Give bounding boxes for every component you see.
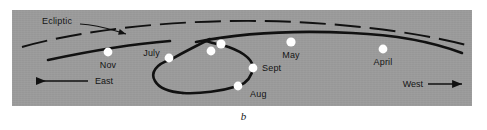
label-west: West [403,79,424,89]
marker-unlabeled-lower [207,47,216,56]
retrograde-loop-exit [222,45,253,67]
marker-unlabeled-upper [216,39,225,48]
figure-panel-b: Ecliptic Nov July Sept Aug May April Eas… [0,0,487,130]
marker-sept [249,64,258,73]
figure-caption: b [0,110,487,122]
retrograde-loop-west-hook [153,60,183,93]
marker-april [379,45,388,54]
retrograde-loop-bottom [183,86,238,93]
label-ecliptic: Ecliptic [42,16,72,26]
marker-july [165,54,174,63]
ecliptic-leader-line [80,24,126,34]
marker-may [286,37,295,46]
label-nov: Nov [100,60,117,70]
label-sept: Sept [262,63,282,73]
label-april: April [373,57,392,67]
marker-nov [104,48,113,57]
label-aug: Aug [250,89,267,99]
label-july: July [143,48,160,58]
label-east: East [95,76,114,86]
label-may: May [282,50,300,60]
marker-aug [234,82,243,91]
